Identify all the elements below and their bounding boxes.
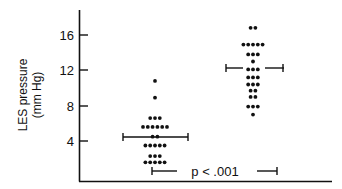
data-point	[242, 43, 246, 47]
group1-dots	[141, 79, 169, 164]
data-point	[251, 113, 255, 117]
data-point	[246, 76, 250, 80]
data-point	[146, 125, 150, 129]
data-point	[151, 135, 155, 139]
data-point	[256, 43, 260, 47]
data-point	[251, 105, 255, 109]
data-point	[148, 116, 152, 120]
data-point	[148, 154, 152, 158]
data-point	[158, 154, 162, 158]
data-point	[256, 53, 260, 57]
group2-mean-bar	[226, 64, 284, 72]
data-point	[165, 125, 169, 129]
data-point	[251, 68, 255, 72]
data-point	[163, 144, 167, 148]
y-axis-title-line2: (mm Hg)	[30, 72, 44, 119]
data-point	[158, 116, 162, 120]
data-point	[261, 43, 265, 47]
data-point	[249, 89, 253, 93]
y-axis-title-line1: LES pressure	[16, 58, 30, 131]
data-point	[153, 144, 157, 148]
data-point	[246, 68, 250, 72]
data-point	[251, 76, 255, 80]
data-point	[163, 160, 167, 164]
data-point	[246, 105, 250, 109]
data-point	[254, 89, 258, 93]
data-point	[254, 95, 258, 99]
data-point	[251, 43, 255, 47]
data-point	[251, 60, 255, 64]
y-tick-label-4: 4	[67, 134, 74, 149]
data-point	[256, 76, 260, 80]
data-point	[251, 53, 255, 57]
data-point	[256, 105, 260, 109]
data-point	[249, 26, 253, 30]
data-point	[148, 160, 152, 164]
group2-dots	[242, 26, 265, 117]
data-point	[144, 160, 148, 164]
data-point	[141, 125, 145, 129]
data-point	[153, 116, 157, 120]
data-point	[158, 160, 162, 164]
data-point	[153, 160, 157, 164]
data-point	[254, 26, 258, 30]
y-tick-label-8: 8	[67, 99, 74, 114]
data-point	[156, 125, 160, 129]
data-point	[153, 96, 157, 100]
data-point	[246, 43, 250, 47]
data-point	[256, 83, 260, 87]
group1-mean-bar	[123, 133, 188, 141]
p-value-label: p < .001	[191, 164, 238, 179]
y-ticks	[80, 35, 89, 141]
data-point	[246, 83, 250, 87]
data-point	[160, 125, 164, 129]
data-point	[153, 154, 157, 158]
data-point	[246, 53, 250, 57]
data-point	[148, 144, 152, 148]
data-point	[151, 125, 155, 129]
y-tick-label-12: 12	[60, 63, 74, 78]
data-point	[144, 144, 148, 148]
data-point	[256, 68, 260, 72]
data-point	[249, 95, 253, 99]
data-point	[156, 135, 160, 139]
y-axis-title: LES pressure (mm Hg)	[16, 58, 44, 131]
data-point	[153, 79, 157, 83]
dot-plot-chart: 16 12 8 4 LES pressure (mm Hg) p < .001	[0, 0, 342, 189]
data-point	[158, 144, 162, 148]
data-point	[251, 83, 255, 87]
y-tick-label-16: 16	[60, 28, 74, 43]
